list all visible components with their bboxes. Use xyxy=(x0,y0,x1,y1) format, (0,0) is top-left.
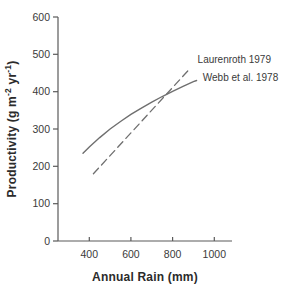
series-group xyxy=(83,69,197,174)
y-tick-label: 200 xyxy=(32,160,50,172)
x-tick-label: 1000 xyxy=(203,248,227,260)
series-labels-group: Laurenroth 1979Webb et al. 1978 xyxy=(198,54,279,84)
line-chart-svg: 01002003004005006004006008001000 Laurenr… xyxy=(0,0,288,294)
y-tick-label: 100 xyxy=(32,197,50,209)
series-label: Laurenroth 1979 xyxy=(198,54,272,65)
series-label: Webb et al. 1978 xyxy=(203,72,279,83)
productivity-vs-rain-chart: 01002003004005006004006008001000 Laurenr… xyxy=(0,0,288,294)
x-tick-label: 400 xyxy=(81,248,99,260)
series-line-solid xyxy=(83,81,197,154)
y-axis-title: Productivity (g m-2 yr-1) xyxy=(3,61,19,198)
x-tick-label: 600 xyxy=(122,248,140,260)
y-tick-label: 400 xyxy=(32,85,50,97)
axes-group: 01002003004005006004006008001000 xyxy=(32,11,232,260)
x-axis-title: Annual Rain (mm) xyxy=(92,270,198,284)
y-tick-label: 300 xyxy=(32,123,50,135)
series-line-dashed xyxy=(93,69,189,174)
y-tick-label: 600 xyxy=(32,11,50,23)
y-tick-label: 500 xyxy=(32,48,50,60)
y-tick-label: 0 xyxy=(44,235,50,247)
x-tick-label: 800 xyxy=(164,248,182,260)
